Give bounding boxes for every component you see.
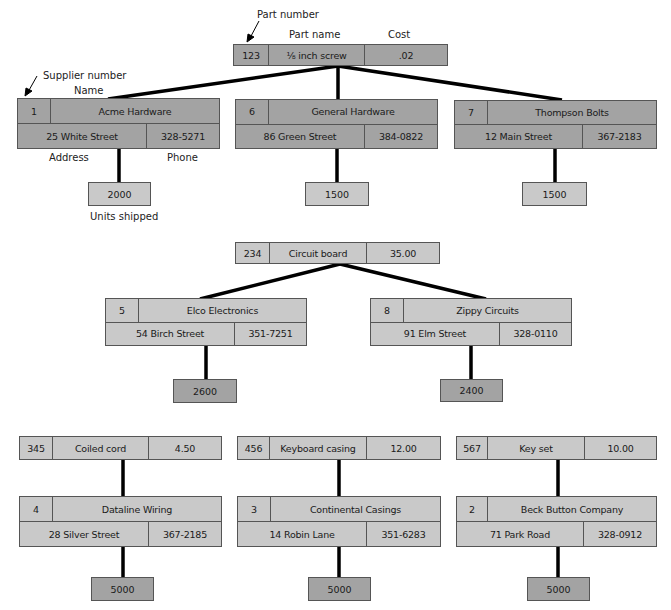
part-name: ⅛ inch screw — [268, 45, 364, 65]
supplier-number: 2 — [457, 497, 487, 521]
part-cost: .02 — [364, 45, 447, 65]
units-shipped: 5000 — [527, 577, 590, 601]
part-number: 234 — [236, 243, 269, 263]
supplier-record: 8 Zippy Circuits 91 Elm Street 328-0110 — [370, 298, 572, 346]
supplier-number: 3 — [238, 497, 270, 521]
units-shipped: 2600 — [173, 379, 237, 403]
part-record: 123 ⅛ inch screw .02 — [233, 44, 448, 66]
units-shipped: 1500 — [305, 182, 369, 206]
supplier-name: Thompson Bolts — [487, 101, 656, 124]
part-number: 567 — [457, 437, 487, 459]
units-shipped: 1500 — [522, 182, 587, 206]
part-name-annotation: Part name — [289, 29, 340, 40]
supplier-phone: 367-2183 — [582, 125, 656, 148]
supplier-record: 2 Beck Button Company 71 Park Road 328-0… — [456, 496, 657, 547]
address-annotation: Address — [49, 152, 89, 163]
supplier-address: 86 Green Street — [236, 125, 364, 149]
supplier-phone: 328-5271 — [146, 124, 219, 148]
supplier-address: 71 Park Road — [457, 522, 583, 546]
supplier-number-annotation: Supplier number — [43, 70, 126, 81]
supplier-phone: 328-0912 — [583, 522, 656, 546]
part-name: Keyboard casing — [269, 437, 366, 459]
supplier-name: Elco Electronics — [138, 299, 306, 322]
supplier-number: 7 — [455, 101, 487, 124]
supplier-record: 4 Dataline Wiring 28 Silver Street 367-2… — [19, 496, 222, 547]
supplier-record: 5 Elco Electronics 54 Birch Street 351-7… — [105, 298, 307, 346]
supplier-phone: 328-0110 — [499, 323, 571, 346]
supplier-name: General Hardware — [268, 100, 437, 124]
part-cost: 10.00 — [584, 437, 656, 459]
part-number: 456 — [238, 437, 269, 459]
units-shipped: 5000 — [91, 577, 154, 601]
supplier-address: 28 Silver Street — [20, 522, 148, 546]
supplier-record: 7 Thompson Bolts 12 Main Street 367-2183 — [454, 100, 657, 149]
supplier-name: Continental Casings — [270, 497, 440, 521]
part-cost: 4.50 — [148, 437, 221, 459]
supplier-phone: 351-6283 — [366, 522, 440, 546]
part-record: 456 Keyboard casing 12.00 — [237, 436, 441, 460]
supplier-name: Beck Button Company — [487, 497, 656, 521]
units-shipped-annotation: Units shipped — [90, 211, 158, 222]
supplier-address: 54 Birch Street — [106, 323, 234, 346]
supplier-name: Zippy Circuits — [403, 299, 571, 322]
supplier-number: 8 — [371, 299, 403, 322]
supplier-record: 1 Acme Hardware 25 White Street 328-5271 — [17, 98, 220, 149]
name-annotation: Name — [74, 85, 104, 96]
units-shipped: 2400 — [440, 379, 503, 402]
supplier-phone: 384-0822 — [364, 125, 437, 149]
part-record: 345 Coiled cord 4.50 — [19, 436, 222, 460]
part-name: Circuit board — [269, 243, 366, 263]
supplier-address: 91 Elm Street — [371, 323, 499, 346]
supplier-name: Acme Hardware — [50, 99, 219, 123]
part-cost: 35.00 — [366, 243, 439, 263]
supplier-phone: 367-2185 — [148, 522, 221, 546]
supplier-address: 25 White Street — [18, 124, 146, 148]
supplier-name: Dataline Wiring — [52, 497, 221, 521]
part-name: Key set — [487, 437, 584, 459]
part-record: 234 Circuit board 35.00 — [235, 242, 440, 264]
cost-annotation: Cost — [388, 29, 410, 40]
part-name: Coiled cord — [52, 437, 148, 459]
supplier-address: 12 Main Street — [455, 125, 582, 148]
units-shipped: 5000 — [308, 577, 371, 601]
supplier-number: 1 — [18, 99, 50, 123]
supplier-record: 3 Continental Casings 14 Robin Lane 351-… — [237, 496, 441, 547]
part-record: 567 Key set 10.00 — [456, 436, 657, 460]
phone-annotation: Phone — [167, 152, 198, 163]
supplier-number: 5 — [106, 299, 138, 322]
part-cost: 12.00 — [366, 437, 440, 459]
supplier-address: 14 Robin Lane — [238, 522, 366, 546]
supplier-number: 6 — [236, 100, 268, 124]
units-shipped: 2000 — [88, 182, 151, 206]
part-number: 345 — [20, 437, 52, 459]
part-number: 123 — [234, 45, 268, 65]
supplier-phone: 351-7251 — [234, 323, 306, 346]
part-number-annotation: Part number — [257, 9, 319, 20]
supplier-number: 4 — [20, 497, 52, 521]
supplier-record: 6 General Hardware 86 Green Street 384-0… — [235, 99, 438, 149]
